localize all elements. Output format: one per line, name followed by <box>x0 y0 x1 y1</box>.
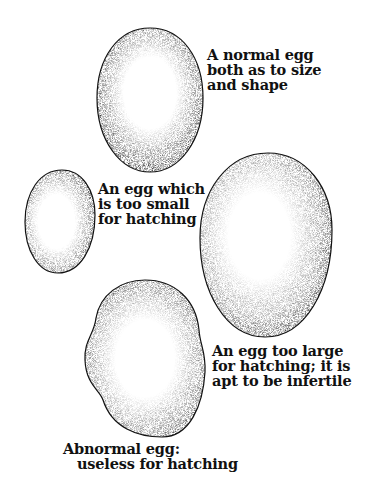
caption-line: for hatching <box>98 211 205 226</box>
caption-line: useless for hatching <box>63 456 238 471</box>
abnormal-egg <box>85 280 205 437</box>
caption-line: An egg which <box>98 181 205 196</box>
caption-line: A normal egg <box>207 47 321 62</box>
caption-line: An egg too large <box>212 343 351 358</box>
caption-line: both as to size <box>207 62 321 77</box>
small-egg-caption: An egg which is too small for hatching <box>98 181 205 226</box>
caption-line: is too small <box>98 196 205 211</box>
normal-egg-caption: A normal egg both as to size and shape <box>207 47 321 92</box>
caption-line: apt to be infertile <box>212 373 351 388</box>
large-egg <box>200 153 332 337</box>
caption-line: for hatching; it is <box>212 358 351 373</box>
normal-egg <box>97 28 203 172</box>
caption-line: and shape <box>207 77 321 92</box>
caption-line: Abnormal egg: <box>63 441 238 456</box>
egg-comparison-figure: A normal egg both as to size and shape A… <box>0 0 371 501</box>
large-egg-caption: An egg too large for hatching; it is apt… <box>212 343 351 388</box>
small-egg <box>25 170 95 273</box>
abnormal-egg-caption: Abnormal egg: useless for hatching <box>63 441 238 471</box>
